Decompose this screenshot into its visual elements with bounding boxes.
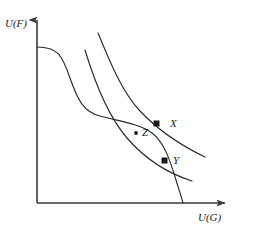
axes-group [37, 20, 225, 203]
figure-canvas [0, 0, 261, 233]
x-axis-label: U(G) [198, 212, 221, 223]
curve-production-possibility-frontier [37, 47, 183, 203]
curves-group [37, 33, 205, 203]
point-marker-z [134, 131, 138, 135]
point-label-z: Z [142, 127, 148, 138]
utility-possibility-frontier-figure: U(F) U(G) X Y Z [0, 0, 261, 233]
point-marker-y [162, 158, 168, 164]
point-marker-x [154, 121, 160, 127]
point-label-y: Y [173, 155, 179, 166]
point-label-x: X [170, 118, 177, 129]
y-axis-label: U(F) [5, 18, 27, 29]
curve-indifference-upper [98, 33, 205, 157]
